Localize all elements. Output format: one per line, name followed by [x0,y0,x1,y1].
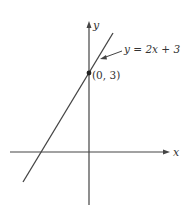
point-label: (0, 3) [92,69,120,81]
y-axis-arrow-icon [87,21,92,28]
graph-line [23,33,113,182]
x-axis-arrow-icon [163,150,170,155]
y-axis-label: y [92,19,100,32]
line-graph: x y (0, 3) y = 2x + 3 [0,0,189,216]
equation-label: y = 2x + 3 [123,43,180,55]
x-axis-label: x [173,146,180,159]
intercept-point [87,71,92,76]
leader-arrow-icon [100,55,107,60]
